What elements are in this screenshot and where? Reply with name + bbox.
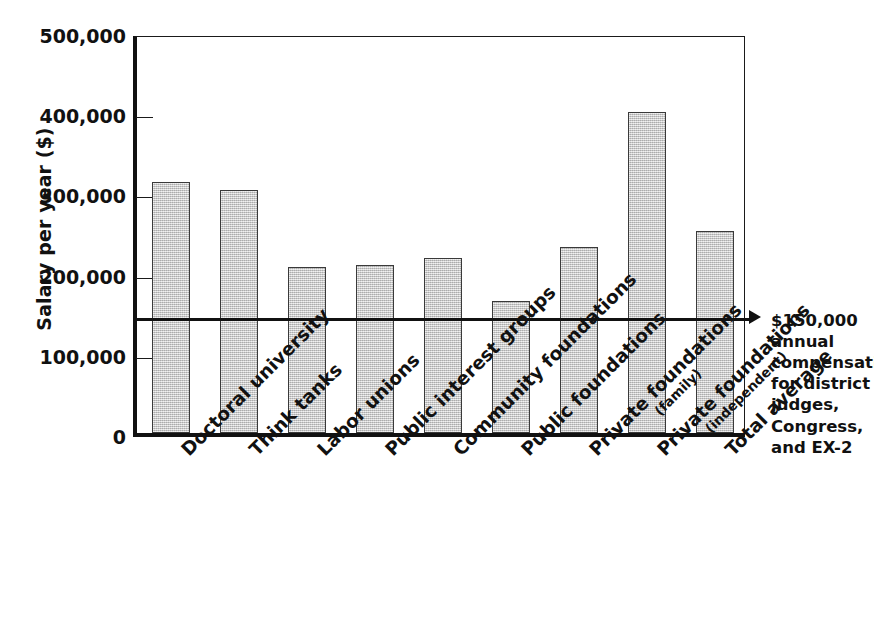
y-axis-tick-label: 0 (113, 426, 126, 448)
bar-chart-figure: Salary per year ($) 0100,000200,000300,0… (0, 0, 874, 617)
y-axis-tick-mark (136, 358, 153, 359)
y-axis-tick-mark (136, 197, 153, 198)
y-axis-title: Salary per year ($) (33, 99, 55, 359)
reference-line-arrow-icon (749, 310, 761, 324)
y-axis-tick-mark (136, 117, 153, 118)
y-axis-tick-label: 200,000 (39, 266, 126, 288)
reference-line-150k (137, 318, 749, 321)
annotation-line: Congress, (771, 416, 874, 437)
y-axis-tick-mark (136, 278, 153, 279)
y-axis-tick-label: 300,000 (39, 185, 126, 207)
annotation-line: and EX-2 (771, 437, 874, 458)
y-axis-tick-label: 400,000 (39, 105, 126, 127)
y-axis-tick-label: 500,000 (39, 25, 126, 47)
y-axis-tick-label: 100,000 (39, 346, 126, 368)
bar (152, 182, 190, 433)
